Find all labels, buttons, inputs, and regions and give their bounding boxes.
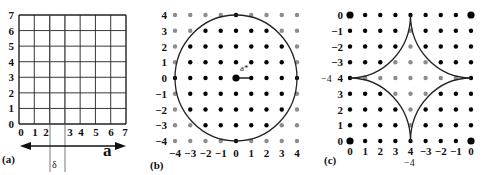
lattice-point-outside bbox=[378, 92, 382, 96]
lattice-point-inside bbox=[423, 76, 427, 80]
lattice-point-outside bbox=[393, 123, 397, 127]
lattice-point-outside bbox=[467, 11, 474, 18]
lattice-point-inside bbox=[280, 44, 284, 48]
lattice-point-inside bbox=[234, 60, 238, 64]
lattice-point-inside bbox=[203, 29, 207, 33]
lattice-point-outside bbox=[346, 137, 353, 144]
lattice-point-inside bbox=[249, 107, 253, 111]
lattice-point-inside bbox=[234, 123, 238, 127]
lattice-point-outside bbox=[188, 123, 192, 127]
lattice-point-inside bbox=[219, 123, 223, 127]
arrow-head-right bbox=[115, 142, 126, 150]
x-tick-label: 1 bbox=[32, 126, 38, 138]
lattice-point-outside bbox=[454, 60, 458, 64]
lattice-point-inside bbox=[280, 60, 284, 64]
lattice-point-inside bbox=[264, 107, 268, 111]
y-tick-label: 2 bbox=[338, 104, 344, 116]
y-tick-label: 4 bbox=[162, 9, 168, 21]
lattice-point-inside bbox=[408, 107, 412, 111]
lattice-point-inside bbox=[203, 92, 207, 96]
lattice-point-inside bbox=[219, 29, 223, 33]
x-tick-label: 0 bbox=[233, 147, 239, 159]
reciprocal-vector-label: a* bbox=[240, 63, 249, 73]
lattice-point-outside bbox=[295, 107, 299, 111]
lattice-point-outside bbox=[295, 29, 299, 33]
lattice-point-outside bbox=[378, 29, 382, 33]
y-tick-label: 1 bbox=[338, 119, 344, 131]
lattice-point-inside bbox=[249, 29, 253, 33]
lattice-point-outside bbox=[469, 107, 473, 111]
lattice-point-outside bbox=[264, 13, 268, 17]
lattice-point-outside bbox=[439, 29, 443, 33]
y-tick-label: 1 bbox=[162, 56, 168, 68]
lattice-point-outside bbox=[393, 44, 397, 48]
panel-c: 0−1−2−34321001234−3−2−10 bbox=[331, 9, 474, 157]
lattice-point-outside bbox=[280, 29, 284, 33]
y-tick-label: 0 bbox=[338, 135, 344, 147]
lattice-point-inside bbox=[393, 76, 397, 80]
x-tick-label: 0 bbox=[18, 126, 24, 138]
lattice-point-outside bbox=[454, 29, 458, 33]
lattice-point-inside bbox=[219, 60, 223, 64]
lattice-point-inside bbox=[188, 92, 192, 96]
lattice-point-outside bbox=[173, 29, 177, 33]
lattice-point-outside bbox=[378, 107, 382, 111]
lattice-point-outside bbox=[439, 107, 443, 111]
panel-c-label: (c) bbox=[324, 154, 337, 167]
lattice-point-outside bbox=[423, 107, 427, 111]
lattice-point-outside bbox=[363, 123, 367, 127]
lattice-point-outside bbox=[173, 139, 177, 143]
lattice-point-outside bbox=[363, 60, 367, 64]
figure: 0123456701234567 (a) a δ 43210−1−2−3−4−4… bbox=[0, 0, 486, 175]
x-tick-label: 2 bbox=[43, 126, 49, 138]
lattice-point-outside bbox=[363, 44, 367, 48]
lattice-point-outside bbox=[363, 13, 367, 17]
y-tick-label: 2 bbox=[9, 87, 15, 99]
lattice-point-inside bbox=[439, 76, 443, 80]
lattice-point-inside bbox=[280, 107, 284, 111]
panel-b: 43210−1−2−3−4−4−3−2−101234 bbox=[155, 9, 300, 159]
lattice-point-outside bbox=[454, 107, 458, 111]
arrow-head-left bbox=[20, 142, 31, 150]
lattice-point-outside bbox=[423, 139, 427, 143]
panel-c-x-sublabel: −4 bbox=[404, 157, 415, 168]
vector-a-label: a bbox=[103, 141, 112, 160]
lattice-point-inside bbox=[219, 76, 223, 80]
y-tick-label: 2 bbox=[162, 41, 168, 53]
x-tick-label: 5 bbox=[93, 126, 99, 138]
y-tick-label: −3 bbox=[155, 119, 167, 131]
lattice-point-outside bbox=[173, 13, 177, 17]
x-tick-label: −1 bbox=[450, 145, 462, 157]
lattice-point-inside bbox=[408, 60, 412, 64]
lattice-point-outside bbox=[393, 139, 397, 143]
lattice-point-inside bbox=[264, 29, 268, 33]
lattice-point-outside bbox=[348, 107, 352, 111]
y-tick-label: −3 bbox=[331, 56, 343, 68]
lattice-point-inside bbox=[249, 44, 253, 48]
delta-label: δ bbox=[52, 159, 57, 170]
lattice-point-inside bbox=[234, 29, 238, 33]
x-tick-label: −2 bbox=[200, 147, 212, 159]
lattice-point-outside bbox=[346, 11, 353, 18]
lattice-point-inside bbox=[423, 60, 427, 64]
lattice-point-outside bbox=[454, 139, 458, 143]
lattice-point-inside bbox=[234, 107, 238, 111]
lattice-point-outside bbox=[454, 13, 458, 17]
lattice-point-outside bbox=[454, 92, 458, 96]
lattice-point-outside bbox=[423, 29, 427, 33]
lattice-point-outside bbox=[469, 44, 473, 48]
x-tick-label: 0 bbox=[347, 145, 353, 157]
lattice-point-outside bbox=[454, 123, 458, 127]
lattice-point-inside bbox=[188, 107, 192, 111]
lattice-point-outside bbox=[280, 13, 284, 17]
lattice-point-inside bbox=[393, 60, 397, 64]
lattice-point-outside bbox=[348, 92, 352, 96]
lattice-point-outside bbox=[439, 44, 443, 48]
y-tick-label: −2 bbox=[155, 104, 167, 116]
lattice-point-outside bbox=[393, 29, 397, 33]
x-tick-label: −2 bbox=[435, 145, 447, 157]
lattice-point-outside bbox=[188, 139, 192, 143]
x-tick-label: 4 bbox=[408, 145, 414, 157]
lattice-point-outside bbox=[188, 13, 192, 17]
x-tick-label: −1 bbox=[215, 147, 227, 159]
